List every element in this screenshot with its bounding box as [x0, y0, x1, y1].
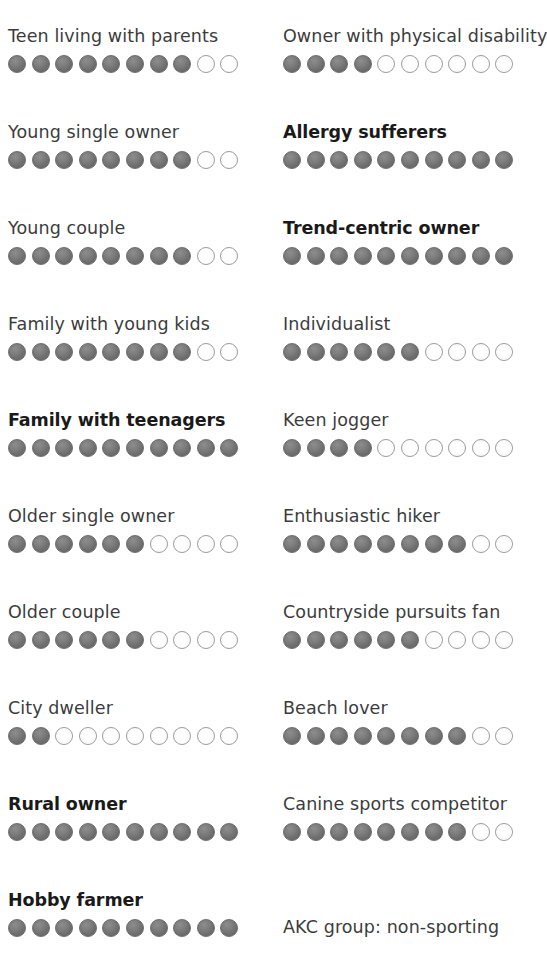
rating-dot-track: [283, 149, 513, 171]
rating-dot-filled: [220, 439, 238, 457]
rating-dot-filled: [173, 343, 191, 361]
rating-dot-filled: [102, 439, 120, 457]
rating-dot-empty: [377, 55, 395, 73]
rating-row-label: Older single owner: [8, 506, 175, 526]
rating-dot-filled: [307, 727, 325, 745]
rating-dot-filled: [8, 55, 26, 73]
rating-dot-filled: [32, 631, 50, 649]
rating-dot-empty: [472, 55, 490, 73]
rating-dot-empty: [425, 439, 443, 457]
rating-dot-filled: [425, 727, 443, 745]
rating-row-label: Family with young kids: [8, 314, 210, 334]
rating-dot-filled: [173, 823, 191, 841]
rating-dot-filled: [102, 55, 120, 73]
rating-dot-track: [8, 245, 238, 267]
rating-dot-filled: [307, 823, 325, 841]
rating-dot-empty: [220, 727, 238, 745]
rating-dot-filled: [8, 439, 26, 457]
rating-dot-filled: [330, 55, 348, 73]
rating-dot-empty: [425, 631, 443, 649]
rating-dot-filled: [197, 823, 215, 841]
rating-dot-filled: [126, 439, 144, 457]
rating-dot-filled: [8, 535, 26, 553]
rating-dot-filled: [173, 439, 191, 457]
rating-row-label: Trend-centric owner: [283, 218, 479, 238]
rating-dot-filled: [173, 247, 191, 265]
rating-row-label: Keen jogger: [283, 410, 389, 430]
rating-dot-filled: [354, 439, 372, 457]
rating-dot-filled: [283, 343, 301, 361]
rating-dot-filled: [102, 823, 120, 841]
rating-dot-track: [8, 725, 238, 747]
rating-dot-filled: [126, 535, 144, 553]
rating-row: City dweller: [8, 680, 258, 776]
rating-row-label: Family with teenagers: [8, 410, 225, 430]
rating-dot-filled: [126, 55, 144, 73]
rating-row-label: AKC group: non-sporting: [283, 917, 499, 937]
rating-dot-filled: [8, 343, 26, 361]
rating-dot-filled: [425, 823, 443, 841]
rating-dot-empty: [425, 55, 443, 73]
rating-dot-filled: [448, 823, 466, 841]
rating-dot-filled: [8, 247, 26, 265]
rating-row-label: Countryside pursuits fan: [283, 602, 500, 622]
rating-dot-empty: [220, 535, 238, 553]
rating-dot-filled: [8, 631, 26, 649]
rating-row: Young couple: [8, 200, 258, 296]
rating-dot-filled: [448, 247, 466, 265]
rating-dot-filled: [307, 151, 325, 169]
rating-dot-empty: [472, 439, 490, 457]
rating-dot-track: [8, 53, 238, 75]
rating-dot-filled: [472, 151, 490, 169]
rating-row: Rural owner: [8, 776, 258, 872]
rating-dot-track: [8, 917, 238, 939]
rating-row-label: Enthusiastic hiker: [283, 506, 440, 526]
rating-dot-filled: [377, 727, 395, 745]
rating-dot-filled: [150, 439, 168, 457]
rating-row: Keen jogger: [283, 392, 533, 488]
rating-dot-filled: [102, 919, 120, 937]
rating-row-label: Young couple: [8, 218, 125, 238]
rating-dot-filled: [150, 919, 168, 937]
rating-dot-filled: [173, 151, 191, 169]
rating-dot-filled: [283, 151, 301, 169]
rating-row: Older single owner: [8, 488, 258, 584]
rating-dot-filled: [126, 631, 144, 649]
rating-dot-filled: [401, 631, 419, 649]
rating-dot-filled: [377, 535, 395, 553]
rating-dot-filled: [401, 151, 419, 169]
rating-row-label: Older couple: [8, 602, 121, 622]
rating-row: AKC group: non-sporting: [283, 872, 533, 954]
rating-row-label: Teen living with parents: [8, 26, 218, 46]
rating-dot-filled: [330, 439, 348, 457]
rating-dot-filled: [55, 247, 73, 265]
rating-dot-filled: [32, 919, 50, 937]
rating-dot-filled: [354, 151, 372, 169]
rating-row: Individualist: [283, 296, 533, 392]
rating-dot-filled: [495, 247, 513, 265]
rating-dot-filled: [330, 631, 348, 649]
rating-dot-empty: [495, 727, 513, 745]
rating-row: Hobby farmer: [8, 872, 258, 954]
rating-dot-filled: [330, 247, 348, 265]
rating-row-label: Beach lover: [283, 698, 388, 718]
rating-dot-filled: [79, 919, 97, 937]
rating-dot-empty: [79, 727, 97, 745]
rating-dot-filled: [354, 631, 372, 649]
rating-dot-filled: [8, 727, 26, 745]
rating-dot-filled: [448, 151, 466, 169]
rating-dot-filled: [32, 55, 50, 73]
rating-dot-filled: [377, 343, 395, 361]
rating-dot-empty: [448, 439, 466, 457]
rating-row: Allergy sufferers: [283, 104, 533, 200]
rating-dot-filled: [150, 823, 168, 841]
rating-dot-filled: [495, 151, 513, 169]
rating-dot-filled: [55, 919, 73, 937]
rating-dot-empty: [173, 727, 191, 745]
rating-row: Canine sports competitor: [283, 776, 533, 872]
rating-dot-filled: [354, 727, 372, 745]
rating-dot-filled: [354, 343, 372, 361]
rating-row-label: Hobby farmer: [8, 890, 143, 910]
rating-row-label: Young single owner: [8, 122, 179, 142]
rating-dot-filled: [307, 631, 325, 649]
